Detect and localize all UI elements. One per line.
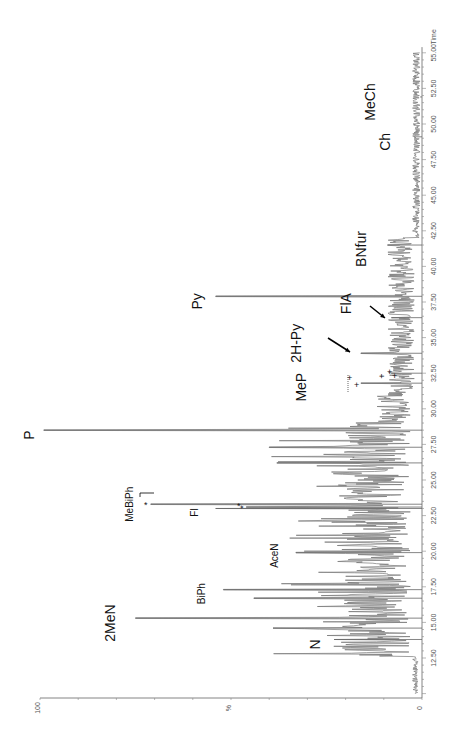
peak-label-mep: MeP	[293, 373, 309, 402]
peak-label-n: N	[307, 639, 323, 649]
time-tick-label: 30.00	[430, 400, 437, 418]
time-tick-label: 15.00	[430, 614, 437, 632]
time-tick-label: 45.00	[430, 186, 437, 204]
peak-labels: N2MeNBiPhAceNFl*MeBiPhPMeP+2H-PyFlAPyBNf…	[21, 83, 397, 649]
time-tick-label: 52.50	[430, 80, 437, 98]
peak-label-fla: FlA	[338, 293, 354, 315]
asterisk-marker: *	[144, 500, 148, 510]
peak-label-mech: MeCh	[362, 83, 378, 120]
chromatogram-chart: 12.5015.0017.5020.0022.5025.0027.5030.00…	[0, 0, 464, 742]
time-tick-label: 50.00	[430, 115, 437, 133]
time-tick-label: 20.00	[430, 542, 437, 560]
time-tick-label: 27.50	[430, 436, 437, 454]
time-tick-label: 40.00	[430, 258, 437, 276]
plus-marker: +	[392, 371, 397, 381]
time-tick-label: 37.50	[430, 293, 437, 311]
peak-label-bnfur: BNfur	[353, 231, 369, 267]
time-tick-label: 35.00	[430, 329, 437, 347]
time-tick-label: 42.50	[430, 222, 437, 240]
time-tick-label: 22.50	[430, 507, 437, 525]
peak-label-fl: Fl	[189, 508, 200, 516]
peak-label-2h-py: 2H-Py	[288, 324, 304, 363]
peak-label-mebiph: MeBiPh	[124, 487, 135, 522]
time-tick-label: 55.00	[430, 44, 437, 62]
peak-label-biph: BiPh	[196, 583, 207, 604]
bracket	[140, 493, 154, 497]
peak-label-p: P	[21, 430, 37, 439]
intensity-tick-label: 0	[416, 706, 423, 710]
peak-label--: +	[377, 374, 387, 379]
time-tick-label: 47.50	[430, 151, 437, 169]
chromatogram-trace	[44, 53, 422, 694]
intensity-tick-label: 100	[34, 702, 41, 714]
time-tick-label: 32.50	[430, 364, 437, 382]
peak-label-py: Py	[189, 293, 205, 309]
time-tick-label: 12.50	[430, 649, 437, 667]
time-axis-title: Time	[430, 29, 437, 44]
time-tick-label: 25.00	[430, 471, 437, 489]
peak-label-2men: 2MeN	[103, 604, 119, 641]
peak-label-acen: AceN	[269, 543, 280, 567]
intensity-tick-label: %	[225, 705, 232, 711]
time-tick-label: 17.50	[430, 578, 437, 596]
plus-marker: +	[354, 380, 359, 390]
peak-label-ch: Ch	[377, 133, 393, 151]
asterisk-marker: *	[237, 501, 241, 511]
